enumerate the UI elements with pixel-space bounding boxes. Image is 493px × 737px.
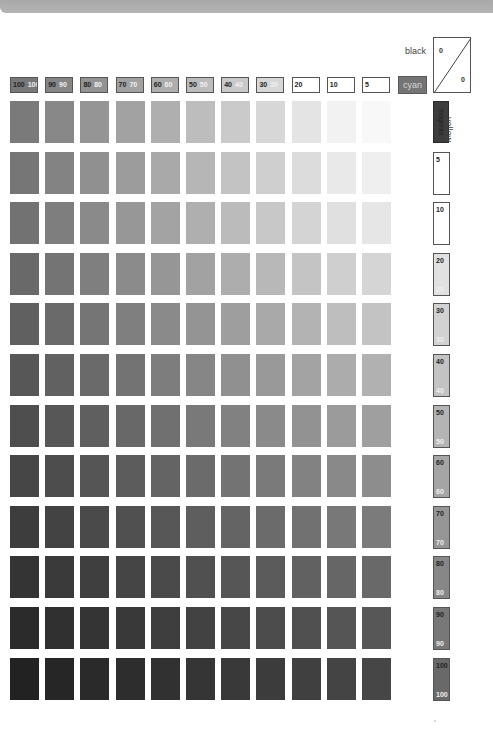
swatch-row-10-col-60 [151, 202, 180, 244]
swatch-row-70-col-60 [151, 506, 180, 548]
row-label-60: 6060 [433, 455, 450, 498]
swatch-row-60-col-90 [45, 455, 74, 497]
swatch-row-30-col-10 [327, 303, 356, 345]
swatch-row-90-col-90 [45, 607, 74, 649]
swatch-row-40-col-90 [45, 354, 74, 396]
row-label-top-text: 20 [436, 257, 444, 264]
row-label-top-text: 100 [436, 662, 448, 669]
swatch-row-50-col-40 [221, 405, 250, 447]
swatch-row-80-col-90 [45, 556, 74, 598]
row-label-top-text: 50 [436, 409, 444, 416]
swatch-row-5-col-80 [80, 152, 109, 194]
swatch-row-50-col-80 [80, 405, 109, 447]
swatch-row-20-col-10 [327, 253, 356, 295]
row-label-40: 4040 [433, 354, 450, 397]
column-label-50: 5050 [186, 77, 214, 93]
row-label-top-text: 70 [436, 510, 444, 517]
column-label-40: 4040 [221, 77, 249, 93]
swatch-row-80-col-50 [186, 556, 215, 598]
column-label-dark-text: 30 [259, 81, 267, 88]
swatch-row-20-col-20 [292, 253, 321, 295]
swatch-row-60-col-20 [292, 455, 321, 497]
swatch-row-5-col-70 [116, 152, 145, 194]
row-label-80: 8080 [433, 556, 450, 599]
column-label-70: 7070 [116, 77, 144, 93]
swatch-row-30-col-80 [80, 303, 109, 345]
swatch-row-0-col-50 [186, 101, 215, 143]
swatch-row-30-col-40 [221, 303, 250, 345]
column-label-dark-text: 40 [224, 81, 232, 88]
row-label-bottom-text: 80 [436, 589, 444, 596]
swatch-row-100-col-80 [80, 658, 109, 700]
swatch-row-20-col-30 [256, 253, 285, 295]
swatch-row-80-col-20 [292, 556, 321, 598]
column-label-20: 20 [292, 77, 320, 93]
swatch-row-90-col-70 [116, 607, 145, 649]
column-label-30: 3030 [256, 77, 284, 93]
column-label-60: 6060 [151, 77, 179, 93]
swatch-row-90-col-5 [362, 607, 391, 649]
swatch-row-100-col-20 [292, 658, 321, 700]
swatch-row-20-col-90 [45, 253, 74, 295]
row-label-top-text: 40 [436, 358, 444, 365]
swatch-row-5-col-40 [221, 152, 250, 194]
column-label-light-text: 70 [129, 81, 137, 88]
swatch-row-100-col-70 [116, 658, 145, 700]
swatch-row-20-col-50 [186, 253, 215, 295]
swatch-row-80-col-80 [80, 556, 109, 598]
swatch-row-80-col-10 [327, 556, 356, 598]
swatch-row-70-col-70 [116, 506, 145, 548]
swatch-row-100-col-5 [362, 658, 391, 700]
swatch-row-40-col-40 [221, 354, 250, 396]
yellow-axis-label: yellow [444, 117, 454, 142]
swatch-row-40-col-5 [362, 354, 391, 396]
swatch-row-10-col-100 [10, 202, 39, 244]
swatch-row-60-col-50 [186, 455, 215, 497]
column-label-light-text: 90 [59, 81, 67, 88]
row-label-100: 100100 [433, 658, 450, 701]
swatch-row-10-col-30 [256, 202, 285, 244]
swatch-row-40-col-70 [116, 354, 145, 396]
swatch-row-30-col-100 [10, 303, 39, 345]
swatch-row-100-col-40 [221, 658, 250, 700]
row-label-top-text: 30 [436, 307, 444, 314]
swatch-row-80-col-30 [256, 556, 285, 598]
swatch-row-10-col-70 [116, 202, 145, 244]
column-label-light-text: 50 [200, 81, 208, 88]
swatch-row-0-col-90 [45, 101, 74, 143]
swatch-row-0-col-70 [116, 101, 145, 143]
swatch-row-0-col-60 [151, 101, 180, 143]
swatch-row-50-col-90 [45, 405, 74, 447]
swatch-row-50-col-70 [116, 405, 145, 447]
column-label-dark-text: 80 [83, 81, 91, 88]
swatch-row-20-col-40 [221, 253, 250, 295]
column-label-5: 5 [362, 77, 390, 93]
column-label-light-text: 60 [165, 81, 173, 88]
column-label-100: 100100 [10, 77, 38, 93]
swatch-row-5-col-60 [151, 152, 180, 194]
swatch-row-90-col-60 [151, 607, 180, 649]
swatch-row-60-col-30 [256, 455, 285, 497]
swatch-row-0-col-100 [10, 101, 39, 143]
corner-value-black: 0 [439, 47, 443, 54]
top-header-band [0, 0, 493, 13]
swatch-row-30-col-60 [151, 303, 180, 345]
swatch-row-90-col-30 [256, 607, 285, 649]
swatch-row-80-col-100 [10, 556, 39, 598]
swatch-row-5-col-20 [292, 152, 321, 194]
swatch-row-40-col-20 [292, 354, 321, 396]
swatch-row-70-col-100 [10, 506, 39, 548]
swatch-row-40-col-60 [151, 354, 180, 396]
corner-legend-box: 0 0 [433, 37, 471, 93]
swatch-row-70-col-10 [327, 506, 356, 548]
swatch-row-0-col-10 [327, 101, 356, 143]
swatch-row-5-col-50 [186, 152, 215, 194]
row-label-5: 5 [433, 152, 450, 195]
row-label-top-text: 80 [436, 560, 444, 567]
row-label-bottom-text: 100 [436, 691, 448, 698]
swatch-row-40-col-80 [80, 354, 109, 396]
swatch-row-10-col-5 [362, 202, 391, 244]
column-label-dark-text: 5 [365, 81, 369, 88]
row-label-top-text: 90 [436, 611, 444, 618]
swatch-row-70-col-90 [45, 506, 74, 548]
